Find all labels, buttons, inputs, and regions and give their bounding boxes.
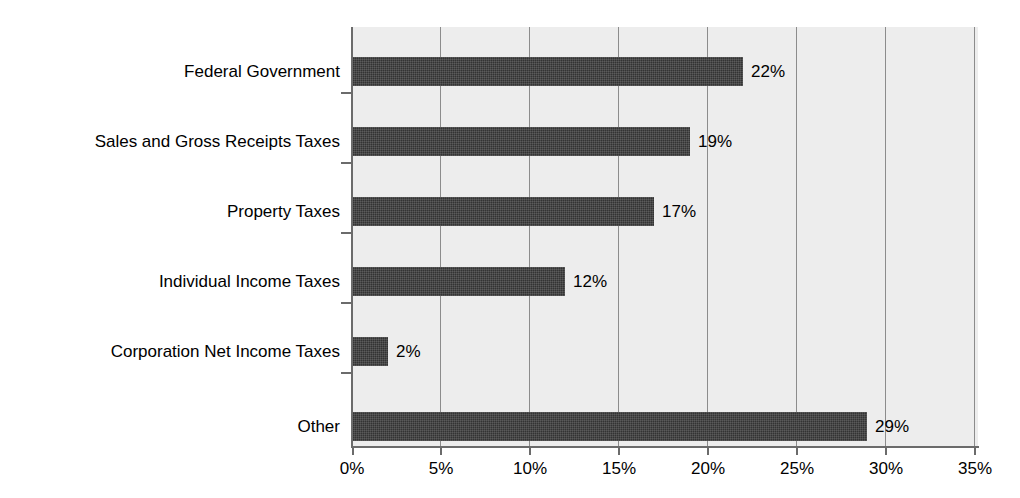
x-tick-label-30: 30% [846, 459, 926, 479]
x-tick-label-35: 35% [935, 459, 1015, 479]
bar-chart: 22% 19% 17% 12% 2% 29% Federal Governmen… [0, 0, 1020, 498]
x-tick-0 [352, 446, 354, 455]
x-tick-20 [707, 446, 709, 455]
bar-individual-income-taxes [352, 267, 565, 296]
x-tick-15 [618, 446, 620, 455]
category-label-property-taxes: Property Taxes [0, 197, 340, 226]
y-tick-4 [341, 302, 352, 304]
category-label-individual-income-taxes: Individual Income Taxes [0, 267, 340, 296]
bar-property-taxes [352, 197, 654, 226]
category-label-sales-and-gross-receipts-taxes: Sales and Gross Receipts Taxes [0, 127, 340, 156]
gridline-20 [707, 27, 708, 446]
category-label-other: Other [0, 412, 340, 441]
bar-value-other: 29% [875, 412, 909, 441]
x-tick-label-0: 0% [312, 459, 392, 479]
x-tick-label-20: 20% [668, 459, 748, 479]
x-tick-label-25: 25% [757, 459, 837, 479]
gridline-25 [796, 27, 797, 446]
x-tick-label-10: 10% [490, 459, 570, 479]
bar-value-individual-income-taxes: 12% [573, 267, 607, 296]
category-label-federal-government: Federal Government [0, 57, 340, 86]
bar-value-federal-government: 22% [751, 57, 785, 86]
x-tick-10 [529, 446, 531, 455]
y-tick-2 [341, 162, 352, 164]
bar-other [352, 412, 867, 441]
gridline-5 [440, 27, 441, 446]
x-tick-30 [885, 446, 887, 455]
bar-value-corporation-net-income-taxes: 2% [396, 337, 421, 366]
x-tick-label-15: 15% [579, 459, 659, 479]
y-tick-5 [341, 372, 352, 374]
bar-value-property-taxes: 17% [662, 197, 696, 226]
gridline-30 [885, 27, 886, 446]
category-label-corporation-net-income-taxes: Corporation Net Income Taxes [0, 337, 340, 366]
x-tick-5 [440, 446, 442, 455]
y-axis-line [351, 27, 353, 448]
gridline-10 [529, 27, 530, 446]
y-tick-3 [341, 232, 352, 234]
gridline-35 [974, 27, 975, 446]
x-tick-35 [974, 446, 976, 455]
bar-sales-and-gross-receipts-taxes [352, 127, 690, 156]
bar-corporation-net-income-taxes [352, 337, 388, 366]
category-axis-labels: Federal Government Sales and Gross Recei… [0, 0, 340, 498]
y-tick-1 [341, 92, 352, 94]
gridline-15 [618, 27, 619, 446]
x-tick-25 [796, 446, 798, 455]
plot-area: 22% 19% 17% 12% 2% 29% [352, 27, 978, 446]
bar-federal-government [352, 57, 743, 86]
bar-value-sales-and-gross-receipts-taxes: 19% [698, 127, 732, 156]
x-tick-label-5: 5% [401, 459, 481, 479]
